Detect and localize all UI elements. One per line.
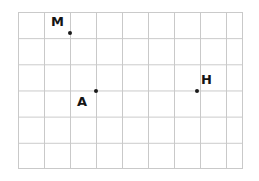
point-marker-h: [195, 89, 199, 93]
coordinate-grid-figure: M A H: [0, 0, 259, 181]
point-label-h: H: [201, 73, 212, 86]
plotted-points-layer: M A H: [0, 0, 259, 181]
point-label-m: M: [51, 15, 64, 28]
point-marker-a: [94, 89, 98, 93]
point-marker-m: [68, 31, 72, 35]
point-label-a: A: [77, 95, 87, 108]
